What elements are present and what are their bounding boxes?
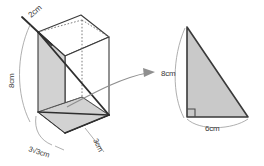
geometry-figure-canvas: 2cm 8cm 3√3cm 3cm 8cm 6cm [0, 0, 264, 166]
prism-top-edge-label: 2cm [27, 3, 44, 20]
prism-base-long-label: 3√3cm [27, 144, 50, 159]
prism-top-2cm-edge [22, 17, 38, 32]
prism-base-long-leader-line [55, 146, 64, 150]
prism-height-leader-arc [20, 25, 31, 122]
cross-section-height-leader-arc [175, 28, 185, 118]
triangular-prism-group: 2cm 8cm 3√3cm 3cm [7, 3, 109, 160]
callout-arrow-head [143, 68, 155, 77]
cross-section-height-label: 8cm [161, 69, 176, 78]
prism-height-label: 8cm [7, 73, 16, 88]
cross-section-group: 8cm 6cm [161, 27, 248, 133]
cross-section-base-label: 6cm [205, 124, 220, 133]
cross-section-triangle [187, 27, 248, 117]
geometry-diagram-svg: 2cm 8cm 3√3cm 3cm 8cm 6cm [0, 0, 264, 166]
